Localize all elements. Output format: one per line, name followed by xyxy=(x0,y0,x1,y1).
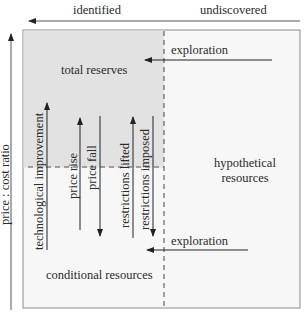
hypothetical-label-line2: resources xyxy=(200,172,290,185)
conditional-resources-label: conditional resources xyxy=(46,269,153,282)
price-fall-label: price fall xyxy=(86,145,99,190)
hypothetical-label-line1: hypothetical xyxy=(200,157,290,170)
restrictions-lifted-label: restrictions lifted xyxy=(119,143,132,228)
restrictions-imposed-label: restrictions imposed xyxy=(139,129,152,230)
y-axis-label: price : cost ratio xyxy=(0,144,12,225)
hypothetical-resources-label: hypothetical resources xyxy=(200,157,290,184)
total-reserves-label: total reserves xyxy=(61,64,127,77)
technological-improvement-label: technological improvement xyxy=(33,113,46,250)
exploration-top-label: exploration xyxy=(171,44,228,57)
price-rise-label: price rise xyxy=(67,153,80,199)
undiscovered-label: undiscovered xyxy=(200,4,267,17)
exploration-bottom-label: exploration xyxy=(171,235,228,248)
identified-label: identified xyxy=(73,4,121,17)
